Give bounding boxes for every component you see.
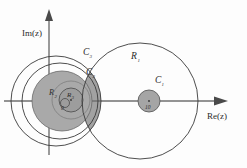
imaginary-axis-label: Im(z) bbox=[22, 28, 42, 38]
real-axis-label: Re(z) bbox=[207, 111, 227, 121]
imaginary-axis-arrow-icon bbox=[45, 9, 53, 21]
label-r1-letter: R bbox=[130, 51, 137, 61]
c1-center-value-label: 10 bbox=[145, 104, 151, 110]
label-c3: C 3 bbox=[83, 47, 93, 59]
label-c3-subscript: 3 bbox=[90, 54, 93, 59]
complex-plane-figure: Im(z) Re(z) C 3 C 2 R 1 C 1 R 2 R bbox=[0, 0, 247, 168]
label-r1-subscript: 1 bbox=[138, 58, 141, 63]
label-c1-subscript: 1 bbox=[162, 82, 165, 87]
label-r2-letter: R bbox=[48, 88, 54, 97]
c1-center-dot bbox=[148, 100, 150, 102]
diagram-canvas: Im(z) Re(z) C 3 C 2 R 1 C 1 R 2 R bbox=[0, 0, 247, 168]
real-axis-arrow-icon bbox=[214, 97, 228, 106]
origin-label: 0 bbox=[61, 105, 64, 111]
label-r1: R 1 bbox=[130, 51, 140, 63]
label-c1: C 1 bbox=[155, 75, 164, 87]
